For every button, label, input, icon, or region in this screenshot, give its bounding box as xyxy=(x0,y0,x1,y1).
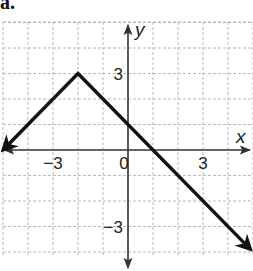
y-axis-label: y xyxy=(133,19,146,40)
x-tick-label: 0 xyxy=(119,154,128,173)
y-tick-label: 3 xyxy=(114,65,123,84)
y-tick-label: −3 xyxy=(104,218,123,237)
x-tick-label: 3 xyxy=(198,154,207,173)
coordinate-plane: xy−3033−3 xyxy=(0,0,253,271)
x-axis-label: x xyxy=(235,126,247,147)
x-tick-label: −3 xyxy=(43,154,62,173)
